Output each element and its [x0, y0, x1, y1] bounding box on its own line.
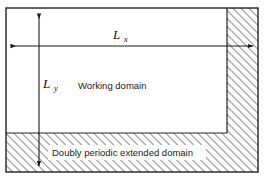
lx-label: L x — [111, 25, 135, 44]
ly-label: L y — [41, 74, 65, 93]
extended-domain-label-text: Doubly periodic extended domain — [52, 147, 193, 158]
figure-container: L x L y Working domain Doubly periodic e… — [0, 0, 268, 182]
extended-domain-label: Doubly periodic extended domain — [48, 145, 206, 160]
lx-label-text: L — [112, 27, 120, 42]
working-domain-label: Working domain — [78, 80, 146, 91]
lx-label-subscript: x — [123, 34, 128, 44]
ly-label-subscript: y — [53, 83, 58, 93]
schematic-diagram: L x L y Working domain Doubly periodic e… — [0, 0, 268, 182]
ly-label-text: L — [42, 76, 50, 91]
